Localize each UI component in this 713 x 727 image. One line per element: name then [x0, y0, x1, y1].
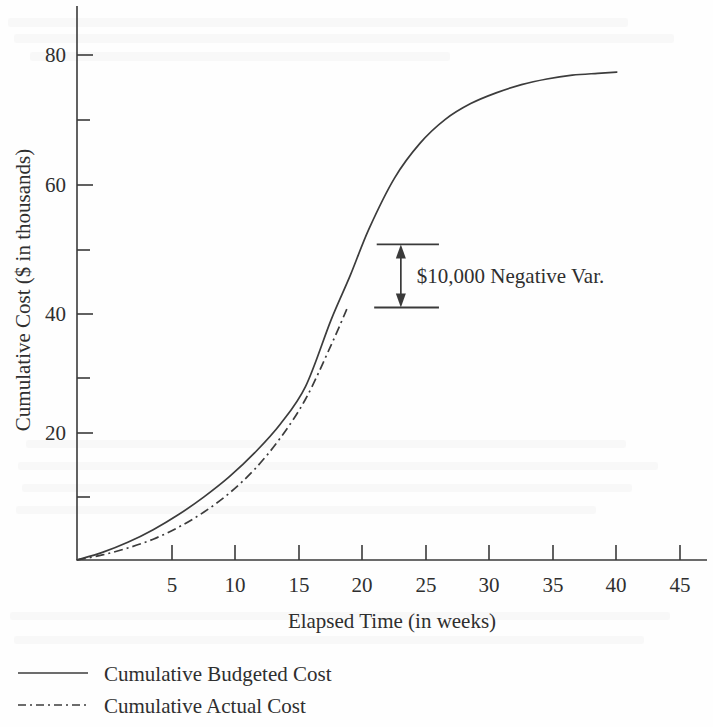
legend-item-cumulative-budgeted-cost: Cumulative Budgeted Cost: [18, 662, 332, 686]
x-tick-label-30: 30: [479, 573, 500, 597]
chart-legend: Cumulative Budgeted Cost Cumulative Actu…: [18, 662, 332, 718]
legend-item-cumulative-actual-cost: Cumulative Actual Cost: [18, 694, 306, 718]
x-tick-label-25: 25: [416, 573, 437, 597]
x-axis-title: Elapsed Time (in weeks): [288, 609, 496, 633]
x-tick-label-5: 5: [167, 573, 178, 597]
y-tick-label-40: 40: [45, 302, 66, 326]
series-line-cumulative-actual-cost: [77, 308, 348, 561]
variance-annotation-label: $10,000 Negative Var.: [417, 264, 604, 288]
legend-label-budgeted: Cumulative Budgeted Cost: [104, 662, 332, 686]
x-tick-label-15: 15: [289, 573, 310, 597]
y-tick-label-20: 20: [45, 421, 66, 445]
x-tick-label-10: 10: [225, 573, 246, 597]
y-axis-title: Cumulative Cost ($ in thousands): [11, 149, 35, 431]
variance-arrow-head-up: [396, 244, 406, 258]
x-tick-label-35: 35: [543, 573, 564, 597]
series-line-cumulative-budgeted-cost: [77, 72, 617, 560]
y-tick-label-60: 60: [45, 173, 66, 197]
axis-group: [77, 6, 707, 560]
chart-page: 80 60 40 20 5 10 15 20 25 30 35 40 45 El…: [0, 0, 713, 727]
y-axis-ticks: [77, 55, 93, 497]
legend-label-actual: Cumulative Actual Cost: [104, 694, 306, 718]
x-tick-label-20: 20: [352, 573, 373, 597]
variance-arrow-head-down: [396, 294, 406, 308]
x-tick-label-45: 45: [670, 573, 691, 597]
variance-annotation: $10,000 Negative Var.: [374, 244, 604, 307]
cost-variance-chart: 80 60 40 20 5 10 15 20 25 30 35 40 45 El…: [0, 0, 713, 727]
x-tick-label-40: 40: [606, 573, 627, 597]
x-axis-ticks: [172, 545, 680, 560]
y-tick-label-80: 80: [45, 43, 66, 67]
